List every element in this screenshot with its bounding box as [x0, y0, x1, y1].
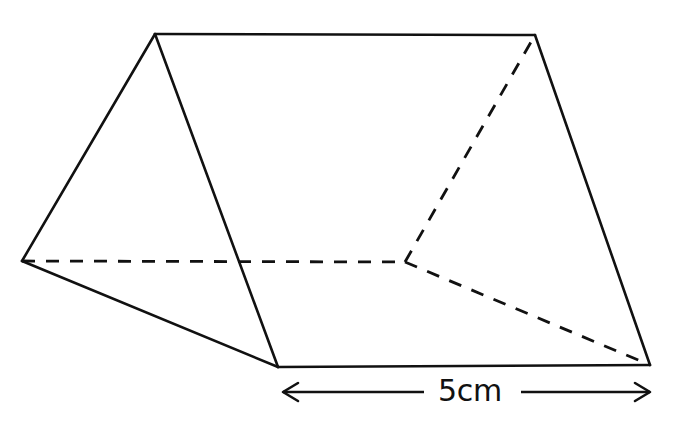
dimension-label: 5cm — [438, 373, 502, 408]
hidden-edges-group — [22, 35, 650, 365]
hidden-bottom-back-edge — [22, 261, 405, 262]
dimension-annotation: 5cm — [283, 373, 650, 408]
solid-edges-group — [22, 34, 650, 367]
front-face-left-slant — [22, 34, 155, 261]
hidden-back-base-edge — [405, 262, 650, 365]
hidden-back-left-slant — [405, 35, 535, 262]
diagram-canvas: 5cm — [0, 0, 680, 433]
front-face-base — [22, 261, 278, 367]
back-face-right-slant — [535, 35, 650, 365]
triangular-prism-figure: 5cm — [0, 0, 680, 433]
bottom-front-edge — [278, 365, 650, 367]
top-ridge — [155, 34, 535, 35]
front-face-right-slant — [155, 34, 278, 367]
